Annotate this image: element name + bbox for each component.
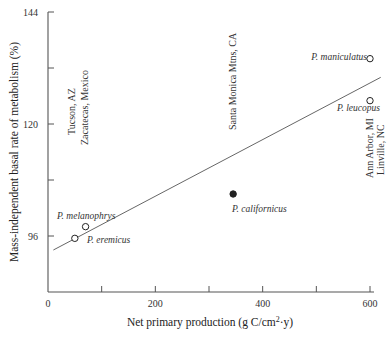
x-tick-label: 600: [363, 298, 378, 309]
data-points: [72, 55, 374, 241]
regression-line: [53, 77, 380, 250]
x-tick-label: 200: [148, 298, 163, 309]
open-circle-marker: [72, 235, 78, 241]
point-label-leucopus: P. leucopus: [336, 103, 380, 113]
x-tick-label: 400: [255, 298, 270, 309]
x-axis-title-pre: Net primary production (g C/cm: [127, 316, 276, 329]
site-label-santa-monica: Santa Monica Mtns, CA: [227, 32, 238, 130]
y-tick-label: 144: [23, 7, 38, 18]
site-label-ann-arbor: Ann Arbor, MI: [364, 118, 375, 178]
x-axis-title-post: ·y): [280, 316, 294, 329]
y-tick-label: 96: [28, 231, 38, 242]
filled-circle-marker: [230, 191, 236, 197]
open-circle-marker: [367, 55, 373, 61]
y-axis-title: Mass-independent basal rate of metabolis…: [8, 42, 21, 262]
point-label-eremicus: P. eremicus: [86, 235, 131, 245]
site-label-linville: Linville, NC: [375, 124, 386, 175]
point-label-californicus: P. californicus: [231, 204, 287, 214]
open-circle-marker: [82, 223, 88, 229]
x-axis-title: Net primary production (g C/cm2·y): [127, 315, 293, 329]
y-tick-label: 120: [23, 119, 38, 130]
site-label-tucson: Tucson, AZ: [66, 88, 77, 135]
site-label-zacatecas: Zacatecas, Mexico: [79, 70, 90, 145]
point-label-melanophrys: P. melanophrys: [56, 211, 116, 221]
scatter-chart: 020040060096120144 P. melanophrys P. ere…: [0, 0, 390, 339]
regression-line-path: [53, 77, 380, 250]
x-tick-label: 0: [46, 298, 51, 309]
point-label-maniculatus: P. maniculatus: [310, 52, 367, 62]
